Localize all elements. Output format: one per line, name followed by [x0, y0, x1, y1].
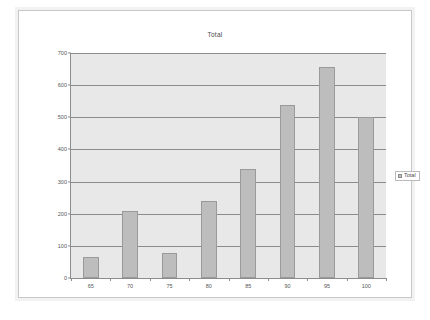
x-axis-tick-label: 90: [285, 283, 291, 289]
x-axis-tick-label: 65: [88, 283, 94, 289]
y-axis-tick-mark: [68, 53, 71, 54]
gridline: [71, 214, 386, 215]
x-axis-tick-mark: [386, 278, 387, 281]
gridline: [71, 53, 386, 54]
x-axis-tick-mark: [71, 278, 72, 281]
bar: [201, 201, 217, 278]
x-axis-tick-label: 70: [127, 283, 133, 289]
x-axis-tick-label: 75: [166, 283, 172, 289]
gridline: [71, 85, 386, 86]
gridline: [71, 246, 386, 247]
bar: [162, 253, 178, 278]
chart-title: Total: [19, 31, 411, 38]
bar: [83, 257, 99, 278]
x-axis-tick-mark: [268, 278, 269, 281]
gridline: [71, 182, 386, 183]
x-axis-tick-label: 95: [324, 283, 330, 289]
x-axis-tick-label: 80: [206, 283, 212, 289]
y-axis-line: [70, 53, 71, 278]
gridline: [71, 117, 386, 118]
y-axis-tick-label: 500: [58, 114, 67, 120]
x-axis-tick-mark: [229, 278, 230, 281]
y-axis-tick-label: 200: [58, 211, 67, 217]
y-axis-tick-label: 0: [64, 275, 67, 281]
y-axis-tick-mark: [68, 85, 71, 86]
y-axis-tick-mark: [68, 149, 71, 150]
x-axis-tick-mark: [307, 278, 308, 281]
x-axis-tick-label: 100: [362, 283, 371, 289]
legend-swatch-icon: [398, 174, 402, 178]
plot-area: [71, 53, 386, 278]
y-axis-tick-label: 400: [58, 146, 67, 152]
y-axis-tick-label: 600: [58, 82, 67, 88]
screenshot-page: Total 0100200300400500600700 65707580859…: [0, 0, 430, 320]
legend-item-label: Total: [404, 173, 416, 179]
x-axis-tick-mark: [189, 278, 190, 281]
x-axis-tick-mark: [110, 278, 111, 281]
y-axis-tick-label: 100: [58, 243, 67, 249]
y-axis-tick-label: 300: [58, 179, 67, 185]
bar: [240, 169, 256, 278]
bar: [358, 117, 374, 278]
bar: [319, 67, 335, 279]
y-axis-tick-label: 700: [58, 50, 67, 56]
y-axis-tick-mark: [68, 117, 71, 118]
x-axis-tick-mark: [347, 278, 348, 281]
y-axis-tick-mark: [68, 213, 71, 214]
chart-legend: Total: [395, 171, 420, 181]
gridline: [71, 149, 386, 150]
x-axis-tick-mark: [150, 278, 151, 281]
plot-area-wrapper: 0100200300400500600700 65707580859095100: [71, 53, 386, 278]
y-axis-tick-mark: [68, 181, 71, 182]
chart-container: Total 0100200300400500600700 65707580859…: [18, 10, 412, 298]
x-axis-tick-label: 85: [245, 283, 251, 289]
bar: [280, 105, 296, 278]
bar: [122, 211, 138, 279]
y-axis-tick-mark: [68, 245, 71, 246]
